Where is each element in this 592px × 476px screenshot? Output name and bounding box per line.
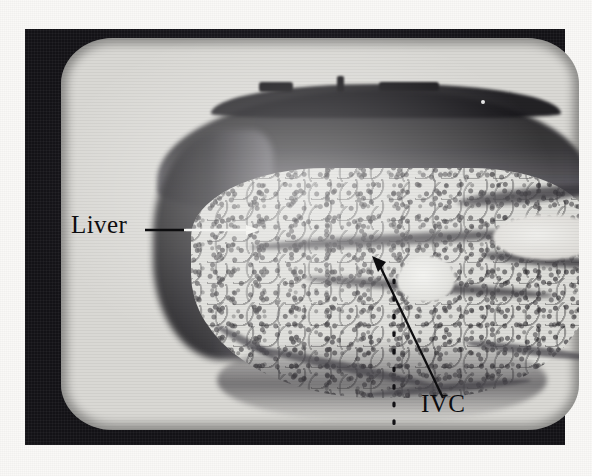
crt-screen: [61, 38, 579, 430]
wall-notch-artifact: [379, 82, 439, 91]
transducer-artifact: [259, 82, 293, 92]
figure-page: Liver IVC: [0, 0, 592, 476]
transducer-marker-artifact: [337, 76, 344, 92]
screen-highlight-speck: [481, 100, 485, 104]
ultrasound-image: [61, 38, 579, 430]
liver-label: Liver: [71, 212, 127, 237]
inferior-vena-cava-lumen: [397, 256, 455, 302]
ivc-label: IVC: [421, 391, 465, 416]
